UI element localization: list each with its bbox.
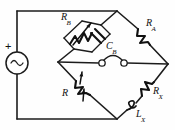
- wire-parallel-loop-lower-left: [74, 49, 92, 52]
- r-adjust-arrow-upper: [79, 72, 83, 84]
- ra-label: RA: [146, 18, 156, 31]
- r-label-main: R: [62, 87, 68, 98]
- r-label: R: [62, 88, 68, 101]
- source-polarity-label: +: [5, 41, 11, 52]
- wire-upper-left-arm-bottom: [58, 49, 74, 62]
- wire-lower-left-arm-upper: [58, 62, 76, 81]
- lx-inductor-symbol: [127, 101, 136, 110]
- lx-label-sub: X: [141, 116, 145, 124]
- ac-bridge-circuit-figure: + RB CB RA R RX LX: [0, 0, 175, 130]
- wire-upper-right-arm-upper: [117, 11, 138, 29]
- wire-detector-left: [58, 62, 99, 63]
- rx-label: RX: [153, 86, 163, 99]
- rb-label-sub: B: [67, 19, 71, 27]
- lx-label: LX: [136, 109, 146, 122]
- r-adjust-arrow-lower: [81, 89, 85, 101]
- wire-detector-right: [127, 63, 168, 64]
- wire-lower-right-arm-bottom: [117, 110, 127, 119]
- wire-lower-left-arm-lower: [90, 95, 117, 119]
- rb-label: RB: [61, 12, 71, 25]
- wire-lower-right-arm-middle: [136, 96, 142, 103]
- detector-terminal-left: [99, 60, 105, 66]
- detector-terminal-right: [121, 60, 127, 66]
- wire-upper-left-arm-top: [101, 11, 117, 25]
- ra-resistor-symbol: [137, 29, 150, 45]
- headphone-detector-symbol: [99, 56, 127, 67]
- wire-parallel-loop-upper-right: [101, 25, 110, 34]
- ra-label-sub: A: [152, 25, 156, 33]
- cb-label: CB: [106, 41, 117, 54]
- rx-label-sub: X: [159, 93, 163, 101]
- wire-lower-right-arm-top: [154, 64, 168, 82]
- cb-label-sub: B: [112, 48, 116, 56]
- wire-upper-right-arm-lower: [150, 45, 168, 64]
